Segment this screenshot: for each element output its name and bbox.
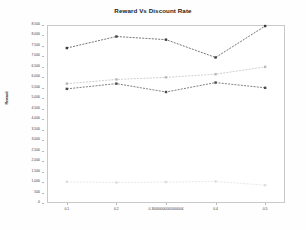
y-tick-label: 6,000 — [32, 75, 41, 78]
y-tick-mark — [42, 151, 44, 152]
y-tick-label: 0 — [38, 201, 40, 204]
series-marker — [264, 87, 266, 89]
y-tick-label: 3,000 — [32, 138, 41, 141]
y-tick-label: 1,000 — [32, 180, 41, 183]
y-tick-mark — [42, 46, 44, 47]
plot-area — [47, 25, 285, 203]
series-line — [67, 83, 265, 92]
y-tick-mark — [42, 35, 44, 36]
y-tick-mark — [42, 109, 44, 110]
x-tick-label: 0.1 — [64, 208, 69, 211]
series-marker — [66, 82, 68, 84]
y-tick-label: 7,000 — [32, 54, 41, 57]
series-marker — [214, 56, 216, 58]
y-tick-mark — [42, 98, 44, 99]
y-tick-mark — [42, 161, 44, 162]
series-marker — [66, 47, 68, 49]
data-series — [66, 81, 267, 93]
x-tick-label: 0.30000000000000004 — [149, 208, 184, 211]
series-line — [67, 26, 265, 57]
data-series — [66, 66, 267, 85]
y-tick-label: 500 — [34, 191, 40, 194]
y-tick-mark — [42, 172, 44, 173]
y-tick-label: 2,000 — [32, 159, 41, 162]
chart-figure: Reward Vs Discount Rate Reward 05001,000… — [0, 0, 306, 230]
series-marker — [264, 25, 266, 27]
y-tick-label: 7,500 — [32, 44, 41, 47]
series-marker — [115, 78, 117, 80]
y-tick-mark — [42, 130, 44, 131]
y-tick-mark — [42, 56, 44, 57]
series-marker — [115, 35, 117, 37]
y-tick-label: 5,000 — [32, 96, 41, 99]
series-marker — [165, 181, 167, 183]
series-line — [67, 67, 265, 84]
y-tick-label: 4,000 — [32, 117, 41, 120]
series-marker — [264, 184, 266, 186]
series-marker — [214, 81, 216, 83]
y-tick-mark — [42, 193, 44, 194]
x-tick-mark — [67, 203, 68, 205]
y-tick-mark — [42, 25, 44, 26]
y-tick-label: 3,500 — [32, 128, 41, 131]
x-tick-mark — [166, 203, 167, 205]
series-marker — [66, 181, 68, 183]
series-marker — [214, 73, 216, 75]
x-tick-mark — [216, 203, 217, 205]
plot-lines — [47, 25, 285, 203]
x-tick-label: 0.4 — [213, 208, 218, 211]
series-marker — [115, 82, 117, 84]
y-tick-mark — [42, 203, 44, 204]
series-marker — [165, 76, 167, 78]
y-tick-mark — [42, 88, 44, 89]
series-marker — [214, 180, 216, 182]
series-marker — [165, 91, 167, 93]
y-tick-label: 4,500 — [32, 107, 41, 110]
y-tick-label: 5,500 — [32, 86, 41, 89]
data-series — [66, 25, 267, 59]
x-tick-label: 0.5 — [263, 208, 268, 211]
y-tick-label: 8,000 — [32, 33, 41, 36]
y-tick-mark — [42, 182, 44, 183]
y-tick-mark — [42, 119, 44, 120]
x-tick-mark — [116, 203, 117, 205]
y-tick-label: 2,500 — [32, 149, 41, 152]
y-tick-label: 6,500 — [32, 65, 41, 68]
y-tick-label: 8,500 — [32, 23, 41, 26]
x-axis-ticks: 0.10.20.300000000000000040.40.5 — [47, 203, 285, 225]
series-marker — [165, 38, 167, 40]
y-tick-mark — [42, 67, 44, 68]
y-tick-mark — [42, 140, 44, 141]
x-tick-label: 0.2 — [114, 208, 119, 211]
data-series — [66, 180, 267, 186]
series-marker — [66, 88, 68, 90]
series-marker — [264, 66, 266, 68]
series-marker — [115, 181, 117, 183]
y-axis-ticks: 05001,0001,5002,0002,5003,0003,5004,0004… — [0, 25, 44, 203]
y-tick-label: 1,500 — [32, 170, 41, 173]
x-tick-mark — [265, 203, 266, 205]
y-tick-mark — [42, 77, 44, 78]
chart-title: Reward Vs Discount Rate — [0, 7, 306, 14]
